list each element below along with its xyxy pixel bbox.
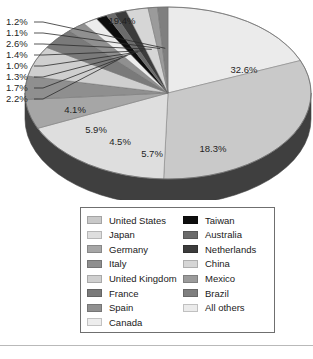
legend-swatch-icon [87,245,102,253]
pie-top-group: All others 19.4%United States 32.6%Japan… [25,7,311,179]
legend-swatch-icon [87,275,102,283]
legend-item-label: Brazil [205,289,229,299]
legend-swatch-icon [183,245,198,253]
legend-item-spain[interactable]: Spain [87,301,183,316]
slice-callout-label: 1.0% [6,60,28,71]
pie-chart-figure: All others 19.4%United States 32.6%Japan… [0,0,313,359]
legend-item-label: United Kingdom [109,274,177,284]
legend-item-label: Japan [109,230,135,240]
legend-item-label: United States [109,216,166,226]
legend-item-label: Spain [109,303,133,313]
slice-value-label: 19.4% [109,15,136,26]
legend-item-label: Mexico [205,274,235,284]
slice-callout-label: 1.4% [6,49,28,60]
legend-item-label: Germany [109,245,148,255]
legend: United StatesJapanGermanyItalyUnited Kin… [80,207,275,333]
legend-item-taiwan[interactable]: Taiwan [183,213,275,228]
legend-item-label: Canada [109,318,142,328]
legend-item-label: Italy [109,259,126,269]
slice-callout-label: 2.2% [6,93,28,104]
slice-value-label: 4.1% [64,104,86,115]
legend-swatch-icon [87,260,102,268]
legend-column-1: United StatesJapanGermanyItalyUnited Kin… [87,213,183,330]
legend-item-japan[interactable]: Japan [87,228,183,243]
legend-swatch-icon [87,304,102,312]
legend-item-brazil[interactable]: Brazil [183,286,275,301]
pie-chart-canvas: All others 19.4%United States 32.6%Japan… [0,0,313,200]
legend-item-label: Australia [205,230,242,240]
legend-item-italy[interactable]: Italy [87,257,183,272]
legend-swatch-icon [87,231,102,239]
legend-item-label: All others [205,303,245,313]
legend-item-label: Taiwan [205,216,235,226]
legend-column-2: TaiwanAustraliaNetherlandsChinaMexicoBra… [183,213,275,330]
legend-swatch-icon [183,304,198,312]
legend-item-china[interactable]: China [183,257,275,272]
slice-callout-label: 1.1% [6,27,28,38]
legend-grid: United StatesJapanGermanyItalyUnited Kin… [87,213,275,330]
legend-item-france[interactable]: France [87,286,183,301]
legend-swatch-icon [183,231,198,239]
slice-value-label: 4.5% [109,136,131,147]
slice-value-label: 18.3% [200,143,227,154]
legend-item-label: France [109,289,139,299]
slice-value-label: 32.6% [231,64,258,75]
legend-swatch-icon [183,260,198,268]
legend-item-australia[interactable]: Australia [183,228,275,243]
legend-item-canada[interactable]: Canada [87,315,183,330]
pie-callout-labels-group: 1.2%1.1%2.6%1.4%1.0%1.3%1.7%2.2% [6,16,28,104]
slice-callout-label: 1.7% [6,82,28,93]
slice-value-label: 5.9% [85,124,107,135]
slice-callout-label: 2.6% [6,38,28,49]
legend-swatch-icon [87,289,102,297]
legend-swatch-icon [183,216,198,224]
slice-value-label: 5.7% [141,148,163,159]
slice-callout-label: 1.3% [6,71,28,82]
legend-item-netherlands[interactable]: Netherlands [183,242,275,257]
legend-swatch-icon [183,289,198,297]
legend-item-united-states[interactable]: United States [87,213,183,228]
footer-divider [0,345,313,346]
slice-callout-label: 1.2% [6,16,28,27]
legend-swatch-icon [87,318,102,326]
legend-item-label: China [205,259,230,269]
legend-item-all-others[interactable]: All others [183,301,275,316]
legend-item-united-kingdom[interactable]: United Kingdom [87,271,183,286]
legend-item-label: Netherlands [205,245,256,255]
legend-item-germany[interactable]: Germany [87,242,183,257]
legend-swatch-icon [183,275,198,283]
legend-swatch-icon [87,216,102,224]
legend-item-mexico[interactable]: Mexico [183,271,275,286]
